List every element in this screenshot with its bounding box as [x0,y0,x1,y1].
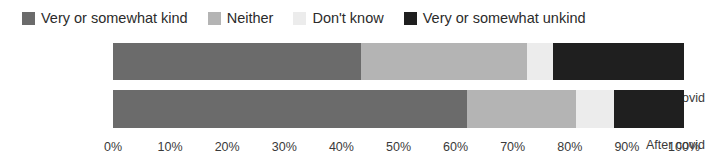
legend-item[interactable]: Neither [208,11,274,26]
legend-swatch-icon [22,12,35,25]
legend-item-label: Very or somewhat kind [41,11,188,26]
legend-swatch-icon [208,12,221,25]
x-axis-tick-label: 20% [215,140,240,154]
x-axis-tick-label: 60% [443,140,468,154]
bar-segment[interactable] [113,43,361,80]
legend-item-label: Very or somewhat unkind [423,11,586,26]
chart-legend: Very or somewhat kindNeitherDon't knowVe… [0,0,714,36]
legend-item[interactable]: Very or somewhat unkind [404,11,586,26]
bar-segment[interactable] [576,90,615,128]
x-axis-tick-label: 30% [272,140,297,154]
x-axis-tick-label: 90% [614,140,639,154]
bar-segment[interactable] [361,43,527,80]
x-axis-tick-label: 70% [500,140,525,154]
x-axis-tick-label: 40% [329,140,354,154]
legend-item-label: Don't know [312,11,383,26]
bar-segment[interactable] [527,43,553,80]
plot-area: Before covid After covid 0%10%20%30%40%5… [0,36,714,164]
legend-item-label: Neither [227,11,274,26]
x-axis-tick-label: 80% [557,140,582,154]
stacked-bar-after-covid [113,90,684,128]
x-axis-tick-label: 10% [158,140,183,154]
x-axis-tick-label: 0% [104,140,122,154]
bar-segment[interactable] [113,90,467,128]
legend-swatch-icon [293,12,306,25]
x-axis: 0%10%20%30%40%50%60%70%80%90%100% [0,136,714,164]
bar-segment[interactable] [553,43,684,80]
legend-item[interactable]: Very or somewhat kind [22,11,188,26]
x-axis-tick-label: 50% [386,140,411,154]
stacked-bar-before-covid [113,43,684,80]
bar-segment[interactable] [614,90,684,128]
bar-segment[interactable] [467,90,575,128]
legend-swatch-icon [404,12,417,25]
x-axis-tick-label: 100% [668,140,700,154]
legend-item[interactable]: Don't know [293,11,383,26]
